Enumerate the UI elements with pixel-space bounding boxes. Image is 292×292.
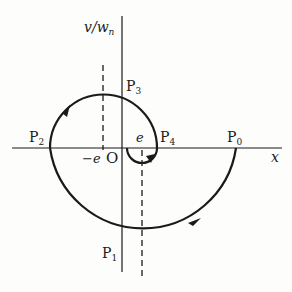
point-p3-label: P3: [126, 79, 141, 96]
origin-label: O: [106, 151, 118, 166]
y-axis-label: v/wn: [84, 20, 114, 37]
neg-e-label: −e: [82, 152, 101, 165]
e-label: e: [136, 131, 144, 144]
point-p0-label: P0: [227, 130, 242, 147]
point-p2-label: P2: [29, 130, 44, 147]
phase-plane-diagram: v/wn x O −e e P0 P1 P2 P3 P4: [0, 0, 292, 292]
point-p1-label: P1: [102, 246, 117, 263]
direction-arrow-icon: [188, 218, 201, 226]
trajectory-arc-p0-p2: [50, 148, 236, 228]
point-p4-label: P4: [160, 130, 175, 147]
direction-arrow-icon: [62, 105, 70, 117]
x-axis-label: x: [271, 150, 279, 164]
